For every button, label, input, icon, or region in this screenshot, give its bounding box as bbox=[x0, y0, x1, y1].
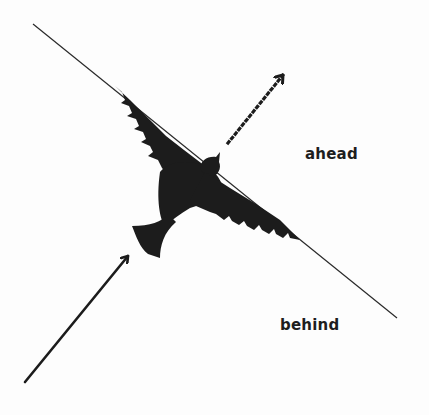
label-ahead: ahead bbox=[305, 147, 358, 162]
incoming-arrow bbox=[25, 256, 128, 382]
outgoing-dotted-arrow bbox=[228, 75, 283, 143]
bird-icon bbox=[115, 86, 300, 258]
diagram-svg bbox=[0, 0, 429, 415]
label-behind: behind bbox=[280, 318, 339, 333]
diagram-canvas: ahead behind bbox=[0, 0, 429, 415]
